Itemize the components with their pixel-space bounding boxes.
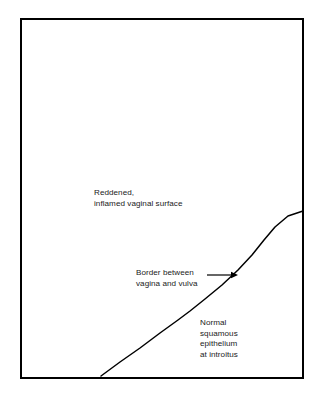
label-border-between-vagina-and-vulva: Border between vagina and vulva	[136, 268, 198, 289]
label-normal-squamous-epithelium-at-introitus: Normal squamous epithelium at introitus	[200, 318, 238, 360]
label-reddened-inflamed-vaginal-surface: Reddened, inflamed vaginal surface	[94, 188, 182, 209]
figure-container: Reddened, inflamed vaginal surface Borde…	[0, 0, 321, 405]
